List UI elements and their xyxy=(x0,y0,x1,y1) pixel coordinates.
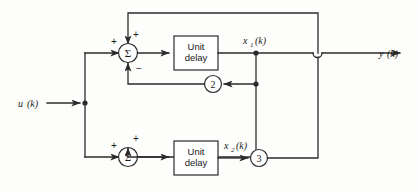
unit-delay-bottom-label-line1: Unit xyxy=(188,146,205,157)
summer-top-sign-feedback: + xyxy=(133,29,139,40)
label-state-x2-sub: 2 xyxy=(231,146,235,154)
label-state-x1-arg: (k) xyxy=(255,35,267,47)
wire-gain-3-to-output-junction xyxy=(268,58,319,159)
label-state-x1: x 1 (k) xyxy=(242,35,267,49)
summer-top-sign-minus: − xyxy=(136,63,142,74)
gain-2-label: 2 xyxy=(211,79,216,90)
label-output-y: y (k) xyxy=(378,48,399,60)
summer-top-symbol: Σ xyxy=(125,47,131,59)
summer-top-sign-input: + xyxy=(111,36,117,47)
node-dot-input-branch xyxy=(82,100,87,105)
wire-outer-feedback-top xyxy=(128,13,318,53)
summer-bottom-sign-feedback: + xyxy=(133,133,139,144)
label-output-y-base: y xyxy=(378,48,384,59)
unit-delay-top-label-line1: Unit xyxy=(188,41,205,52)
label-input-u-base: u xyxy=(18,98,23,109)
label-state-x2-arg: (k) xyxy=(236,140,248,152)
label-input-u: u (k) xyxy=(18,98,39,110)
label-state-x2-base: x xyxy=(223,140,229,151)
block-diagram-svg: Σ + + − Unit delay xyxy=(0,0,418,191)
block-diagram-canvas: Σ + + − Unit delay xyxy=(0,0,418,191)
label-state-x1-base: x xyxy=(242,35,248,46)
unit-delay-top-label-line2: delay xyxy=(185,52,208,63)
unit-delay-bottom-label-line2: delay xyxy=(185,157,208,168)
label-output-y-arg: (k) xyxy=(387,48,399,60)
label-state-x2: x 2 (k) xyxy=(223,140,248,154)
gain-3-label: 3 xyxy=(257,153,262,164)
wire-crossover-hop xyxy=(313,53,322,58)
label-input-u-arg: (k) xyxy=(27,98,39,110)
label-state-x1-sub: 1 xyxy=(250,41,254,49)
summer-bottom-sign-input: + xyxy=(111,140,117,151)
